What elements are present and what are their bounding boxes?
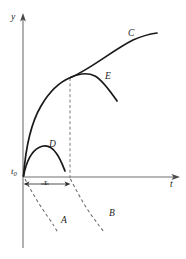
origin-label: t0 xyxy=(11,167,17,176)
curve-d-label: D xyxy=(49,140,56,150)
curve-c-label: C xyxy=(128,29,134,39)
curve-c xyxy=(24,33,158,176)
curve-d xyxy=(24,146,66,176)
t-axis-label: t xyxy=(170,180,173,190)
curve-b xyxy=(71,179,105,232)
origin-label-subscript: 0 xyxy=(14,170,17,177)
curve-e-label: E xyxy=(105,72,111,82)
curve-a xyxy=(25,179,58,233)
curve-a-label: A xyxy=(61,216,67,226)
curve-b-label: B xyxy=(109,209,115,219)
tau-label: τ xyxy=(44,178,47,187)
y-axis-label: y xyxy=(11,13,15,23)
figure-canvas: y t t0 τ C E D A B xyxy=(0,0,186,259)
y-axis-group xyxy=(20,13,26,248)
figure-svg xyxy=(0,0,186,259)
